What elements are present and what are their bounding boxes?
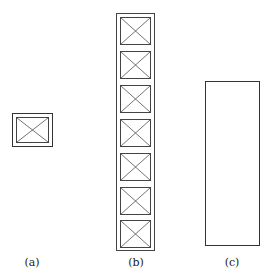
panel-a-label: (a) xyxy=(12,256,52,269)
stack-cell xyxy=(120,85,151,113)
panel-a-cell xyxy=(12,113,53,147)
stack-cell xyxy=(120,187,151,215)
stack-cell xyxy=(120,153,151,181)
stack-cell xyxy=(120,220,151,248)
stack-cell xyxy=(120,119,151,147)
cross-cell-icon xyxy=(16,117,49,143)
panel-c-rectangle xyxy=(205,81,260,246)
panel-b-column xyxy=(116,13,155,251)
stack-cell xyxy=(120,51,151,79)
panel-b-label: (b) xyxy=(116,256,156,269)
stack-cell xyxy=(120,17,151,45)
panel-c-label: (c) xyxy=(212,256,252,269)
